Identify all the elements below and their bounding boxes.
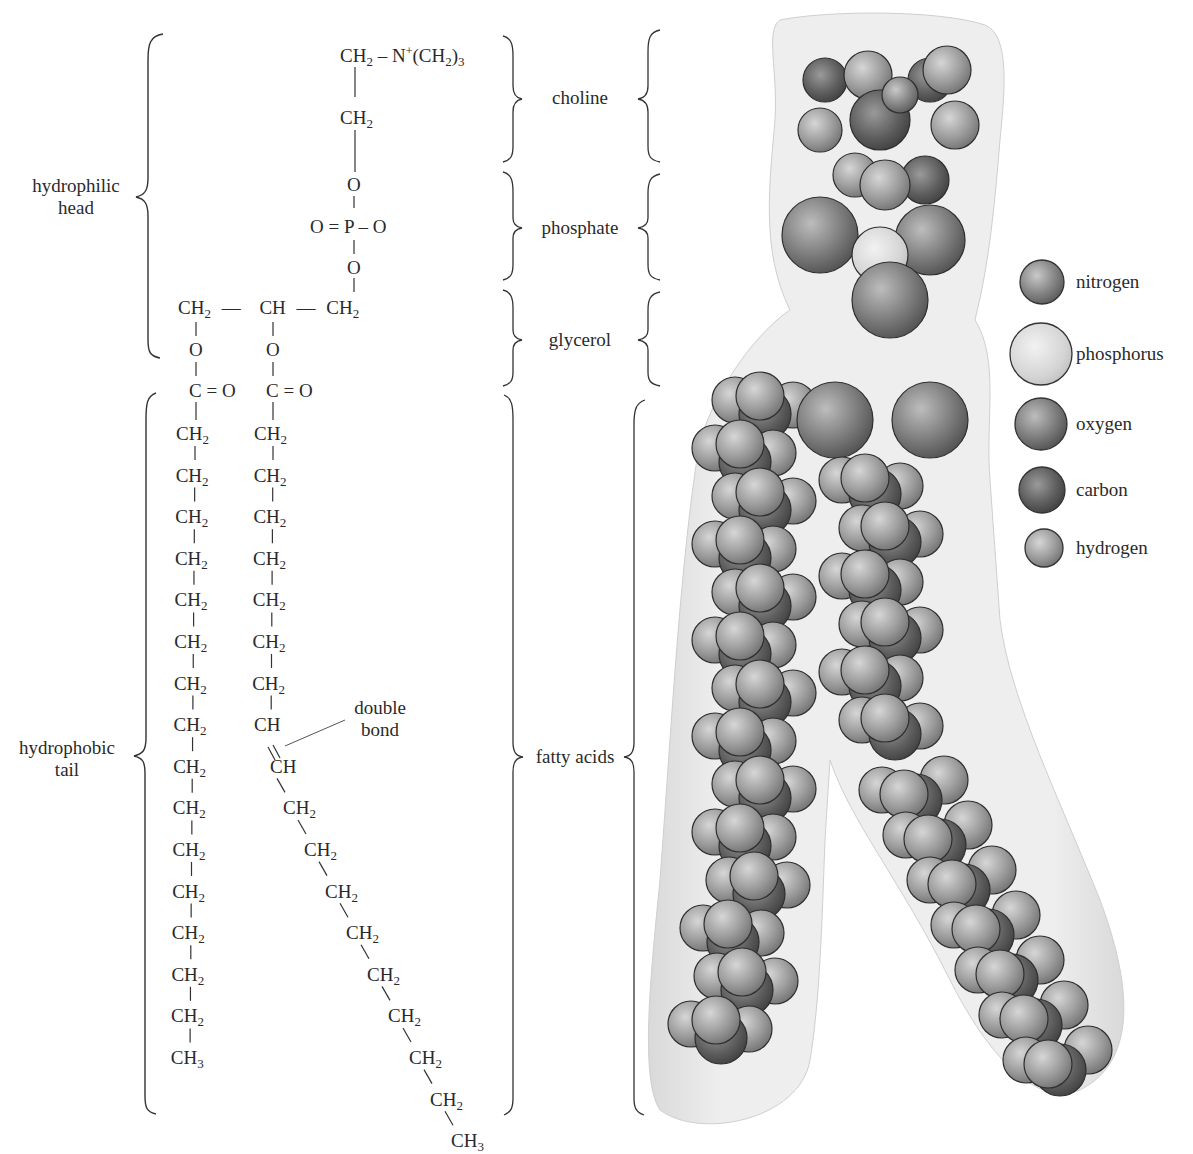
left-chain-ch2: CH2 bbox=[176, 466, 209, 486]
left-chain-ch2: CH2 bbox=[175, 549, 208, 569]
brace-phosphate-left bbox=[638, 174, 660, 280]
brace-glycerol-left bbox=[638, 292, 660, 386]
right-chain-bonds bbox=[271, 446, 453, 1125]
legend-oxygen-icon bbox=[1015, 398, 1067, 450]
brace-hydrophilic-head bbox=[136, 34, 163, 358]
right-chain-ch2: CH2 bbox=[253, 549, 286, 569]
brace-phosphate-right bbox=[503, 172, 522, 280]
annotation-double-bond: double bond bbox=[345, 697, 415, 741]
left-chain-ch2: CH2 bbox=[174, 715, 207, 735]
left-chain-ch2: CH2 bbox=[172, 923, 205, 943]
brace-glycerol-right bbox=[503, 290, 522, 386]
group-label-glycerol: glycerol bbox=[530, 329, 630, 351]
right-chain-ch2: CH2 bbox=[346, 923, 379, 943]
left-chain-ch2: CH2 bbox=[175, 590, 208, 610]
region-label-hydrophobic-tail: hydrophobic tail bbox=[6, 737, 128, 781]
right-chain-ch2: CH2 bbox=[325, 882, 358, 902]
legend-hydrogen-icon bbox=[1025, 529, 1063, 567]
right-chain-ch2: CH2 bbox=[252, 674, 285, 694]
right-chain-ch2: CH2 bbox=[254, 466, 287, 486]
carbonyl-right: C = O bbox=[266, 381, 313, 401]
legend-label-phosphorus: phosphorus bbox=[1076, 343, 1164, 365]
ester-o-right: O bbox=[266, 340, 280, 360]
phosphate-o-top: O bbox=[347, 175, 361, 195]
left-chain-ch3: CH3 bbox=[171, 1048, 204, 1068]
legend-nitrogen-icon bbox=[1020, 260, 1064, 304]
left-chain-ch2: CH2 bbox=[173, 757, 206, 777]
group-label-choline: choline bbox=[530, 87, 630, 109]
brace-choline-right bbox=[503, 36, 522, 162]
brace-hydrophobic-tail bbox=[134, 393, 156, 1114]
legend-label-oxygen: oxygen bbox=[1076, 413, 1132, 435]
phosphate-o-bottom: O bbox=[347, 258, 361, 278]
legend-carbon-icon bbox=[1019, 467, 1065, 513]
legend-label-nitrogen: nitrogen bbox=[1076, 271, 1139, 293]
choline-ch2: CH2 bbox=[340, 108, 373, 128]
right-chain-ch2: CH2 bbox=[367, 965, 400, 985]
right-chain-ch2: CH2 bbox=[283, 798, 316, 818]
region-label-hydrophilic-head: hydrophilic head bbox=[20, 175, 132, 219]
group-label-fatty-acids: fatty acids bbox=[520, 746, 630, 768]
carbonyl-left: C = O bbox=[189, 381, 236, 401]
left-chain-ch2: CH2 bbox=[171, 1006, 204, 1026]
left-chain-ch2: CH2 bbox=[175, 507, 208, 527]
right-chain-ch2: CH2 bbox=[253, 590, 286, 610]
right-chain-ch3: CH3 bbox=[451, 1131, 484, 1151]
left-chain-ch2: CH2 bbox=[176, 424, 209, 444]
brace-choline-left bbox=[638, 30, 660, 162]
ester-o-left: O bbox=[189, 340, 203, 360]
right-chain-ch2: CH2 bbox=[253, 507, 286, 527]
right-chain-ch2: CH2 bbox=[430, 1090, 463, 1110]
space-filling-model bbox=[668, 46, 1112, 1096]
left-chain-ch2: CH2 bbox=[174, 674, 207, 694]
left-chain-bonds bbox=[190, 446, 195, 1042]
legend-label-hydrogen: hydrogen bbox=[1076, 537, 1148, 559]
group-label-phosphate: phosphate bbox=[525, 217, 635, 239]
legend-atoms bbox=[1010, 260, 1072, 567]
left-chain-ch2: CH2 bbox=[172, 882, 205, 902]
right-chain-ch2: CH2 bbox=[254, 424, 287, 444]
left-chain-ch2: CH2 bbox=[171, 965, 204, 985]
left-chain-ch2: CH2 bbox=[173, 840, 206, 860]
legend-label-carbon: carbon bbox=[1076, 479, 1128, 501]
right-chain-ch-double-bond: CH bbox=[270, 757, 296, 777]
right-chain-ch-double-bond: CH bbox=[254, 715, 280, 735]
right-chain-ch2: CH2 bbox=[253, 632, 286, 652]
right-chain-ch2: CH2 bbox=[304, 840, 337, 860]
left-chain-ch2: CH2 bbox=[174, 632, 207, 652]
right-chain-ch2: CH2 bbox=[388, 1006, 421, 1026]
phosphate-center: O = P – O bbox=[310, 217, 387, 237]
right-chain-ch2: CH2 bbox=[409, 1048, 442, 1068]
formula-bonds bbox=[196, 67, 355, 420]
choline-head-formula: CH2 – N+(CH2)3 bbox=[340, 46, 464, 66]
legend-phosphorus-icon bbox=[1010, 323, 1072, 385]
left-chain-ch2: CH2 bbox=[173, 798, 206, 818]
glycerol-formula: CH2 — CH — CH2 bbox=[178, 298, 359, 318]
